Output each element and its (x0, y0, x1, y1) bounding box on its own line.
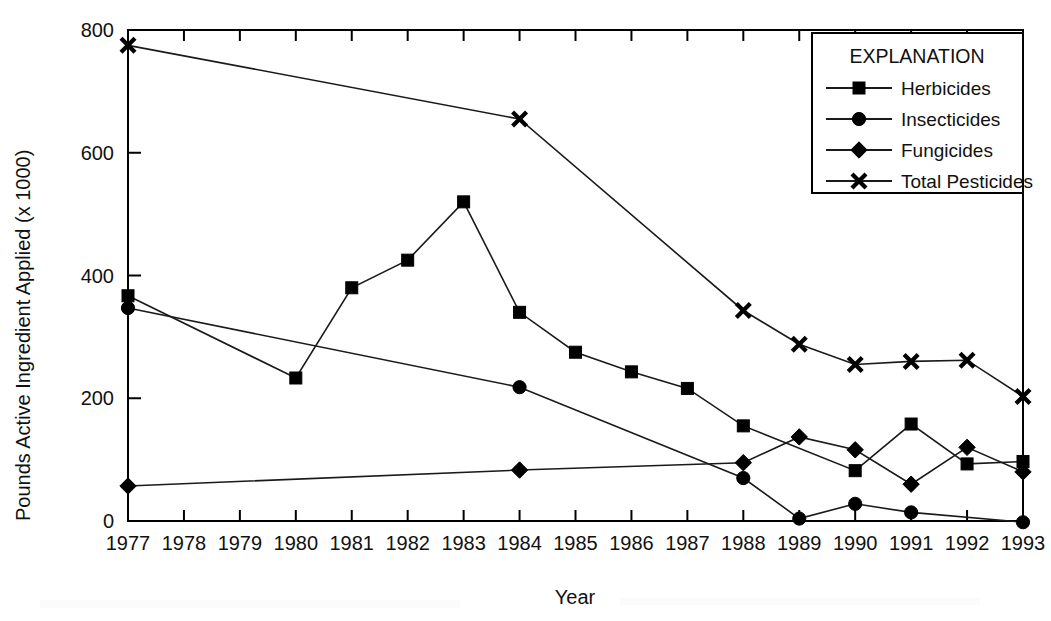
marker-circle (793, 512, 806, 525)
y-tick-label: 200 (81, 387, 114, 409)
x-tick-label: 1984 (497, 532, 542, 554)
marker-square (905, 418, 917, 430)
x-tick-label: 1979 (218, 532, 263, 554)
scan-artifact (620, 598, 980, 605)
marker-circle (849, 497, 862, 510)
marker-diamond (959, 439, 975, 455)
legend-title: EXPLANATION (849, 45, 984, 67)
marker-square (402, 254, 414, 266)
x-tick-label: 1991 (889, 532, 934, 554)
x-tick-label: 1985 (553, 532, 598, 554)
x-tick-label: 1980 (274, 532, 319, 554)
y-tick-label: 0 (103, 510, 114, 532)
marker-circle (513, 381, 526, 394)
x-axis-title: Year (555, 586, 596, 608)
marker-square (570, 346, 582, 358)
legend-label: Insecticides (901, 109, 1000, 130)
series-path (128, 308, 1023, 522)
marker-diamond (791, 429, 807, 445)
series-herbicides (122, 196, 1029, 477)
chart-canvas: Pounds Active Ingredient Applied (x 1000… (0, 0, 1051, 621)
marker-square (681, 382, 693, 394)
x-tick-label: 1978 (162, 532, 207, 554)
marker-square (290, 372, 302, 384)
marker-square (514, 306, 526, 318)
legend-label: Total Pesticides (901, 171, 1033, 192)
pesticide-usage-chart-figure: Pounds Active Ingredient Applied (x 1000… (0, 0, 1051, 621)
x-axis-tick-labels: 1977197819791980198119821983198419851986… (106, 532, 1046, 554)
marker-square (458, 196, 470, 208)
legend-label: Fungicides (901, 140, 993, 161)
marker-square (849, 465, 861, 477)
x-tick-label: 1992 (945, 532, 990, 554)
y-axis-ticks (128, 30, 141, 521)
legend-label: Herbicides (901, 78, 991, 99)
series-path (128, 437, 1023, 486)
y-tick-label: 400 (81, 265, 114, 287)
y-tick-label: 800 (81, 19, 114, 41)
marker-diamond (120, 478, 136, 494)
marker-diamond (847, 442, 863, 458)
marker-square (737, 420, 749, 432)
marker-diamond (735, 454, 751, 470)
x-tick-label: 1987 (665, 532, 710, 554)
x-tick-label: 1982 (385, 532, 430, 554)
marker-circle (905, 506, 918, 519)
x-tick-label: 1988 (721, 532, 766, 554)
y-axis-title: Pounds Active Ingredient Applied (x 1000… (12, 150, 34, 521)
marker-square (961, 458, 973, 470)
legend: EXPLANATION HerbicidesInsecticidesFungic… (812, 33, 1033, 193)
marker-circle (852, 112, 865, 125)
x-tick-label: 1983 (441, 532, 486, 554)
x-tick-label: 1986 (609, 532, 654, 554)
x-tick-label: 1993 (1001, 532, 1046, 554)
marker-square (853, 82, 865, 94)
x-tick-label: 1981 (330, 532, 375, 554)
scan-artifact (40, 600, 460, 608)
y-axis-tick-labels: 0200400600800 (81, 19, 114, 532)
marker-circle (1016, 516, 1029, 529)
marker-diamond (511, 462, 527, 478)
marker-square (625, 366, 637, 378)
marker-square (122, 290, 134, 302)
y-tick-label: 600 (81, 142, 114, 164)
marker-diamond (903, 476, 919, 492)
marker-square (346, 282, 358, 294)
series-path (128, 202, 1023, 471)
x-tick-label: 1990 (833, 532, 878, 554)
x-tick-label: 1989 (777, 532, 822, 554)
marker-circle (737, 471, 750, 484)
marker-circle (121, 301, 134, 314)
x-tick-label: 1977 (106, 532, 151, 554)
series-insecticides (121, 301, 1029, 528)
